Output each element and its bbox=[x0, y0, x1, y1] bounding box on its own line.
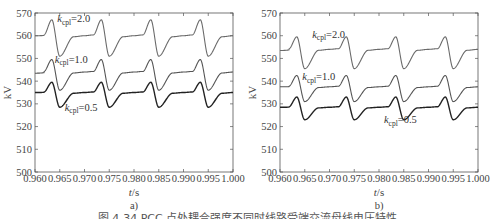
y-tick-label: 560 bbox=[16, 30, 32, 41]
y-tick-label: 570 bbox=[16, 8, 32, 19]
x-axis-title: t/s bbox=[129, 186, 139, 198]
x-tick-label: 0.990 bbox=[417, 173, 441, 184]
series-label: kcpl=0.5 bbox=[384, 114, 417, 128]
series-label: kcpl=1.0 bbox=[302, 71, 335, 85]
y-tick-label: 510 bbox=[16, 144, 32, 155]
x-tick-label: 0.965 bbox=[48, 173, 72, 184]
x-tick-label: 0.965 bbox=[293, 173, 317, 184]
panel-label: b) bbox=[375, 200, 384, 212]
series-label: kcpl=2.0 bbox=[312, 29, 345, 43]
series-line bbox=[280, 37, 478, 69]
x-tick-label: 0.975 bbox=[97, 173, 121, 184]
figure-caption: 图 4-34 PCC 点处耦合强度不同时线路受端交流母线电压特性 bbox=[0, 212, 495, 219]
panel-label: a) bbox=[130, 200, 139, 212]
y-tick-label: 530 bbox=[16, 98, 32, 109]
x-tick-label: 0.975 bbox=[342, 173, 366, 184]
y-tick-label: 520 bbox=[261, 121, 277, 132]
plot-frame bbox=[280, 13, 478, 172]
chart-a-svg: 5005105205305405505605700.9600.9650.9700… bbox=[0, 0, 247, 210]
y-tick-label: 550 bbox=[261, 53, 277, 64]
x-tick-label: 1.000 bbox=[466, 173, 490, 184]
x-tick-label: 0.960 bbox=[23, 173, 47, 184]
x-tick-label: 0.980 bbox=[122, 173, 146, 184]
x-tick-label: 0.970 bbox=[73, 173, 97, 184]
chart-panel-b: 5005105205305405505605700.9600.9650.9700… bbox=[245, 0, 492, 210]
y-tick-label: 550 bbox=[16, 53, 32, 64]
chart-b-svg: 5005105205305405505605700.9600.9650.9700… bbox=[245, 0, 495, 210]
y-axis-title: kV bbox=[1, 86, 13, 100]
x-tick-label: 1.000 bbox=[221, 173, 245, 184]
y-tick-label: 560 bbox=[261, 30, 277, 41]
x-tick-label: 0.990 bbox=[172, 173, 196, 184]
series-label: kcpl=0.5 bbox=[65, 102, 98, 116]
x-tick-label: 0.995 bbox=[441, 173, 465, 184]
x-tick-label: 0.985 bbox=[392, 173, 416, 184]
series-line bbox=[280, 97, 478, 120]
x-tick-label: 0.970 bbox=[318, 173, 342, 184]
x-tick-label: 0.960 bbox=[268, 173, 292, 184]
x-tick-label: 0.985 bbox=[147, 173, 171, 184]
x-tick-label: 0.995 bbox=[196, 173, 220, 184]
x-axis-title: t/s bbox=[374, 186, 384, 198]
y-tick-label: 510 bbox=[261, 144, 277, 155]
y-tick-label: 570 bbox=[261, 8, 277, 19]
y-axis-title: kV bbox=[246, 86, 258, 100]
y-tick-label: 530 bbox=[261, 98, 277, 109]
series-label: kcpl=2.0 bbox=[57, 13, 90, 27]
y-tick-label: 540 bbox=[16, 76, 32, 87]
y-tick-label: 520 bbox=[16, 121, 32, 132]
y-tick-label: 540 bbox=[261, 76, 277, 87]
x-tick-label: 0.980 bbox=[367, 173, 391, 184]
chart-panel-a: 5005105205305405505605700.9600.9650.9700… bbox=[0, 0, 247, 210]
